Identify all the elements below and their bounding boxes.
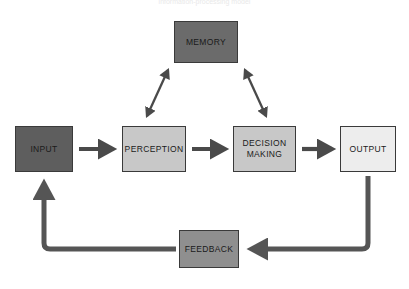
node-memory-label: MEMORY [186, 37, 226, 48]
node-feedback[interactable]: FEEDBACK [179, 230, 239, 268]
arrow-feedback-to-input [44, 184, 176, 249]
node-output-label: OUTPUT [349, 144, 386, 155]
node-memory[interactable]: MEMORY [174, 21, 238, 63]
diagram-canvas: information-processing model [0, 0, 409, 289]
diagram-caption: information-processing model [0, 0, 409, 6]
node-decision-making[interactable]: DECISION MAKING [233, 126, 296, 172]
node-input[interactable]: INPUT [15, 126, 73, 172]
arrow-memory-decision [245, 70, 266, 116]
node-decision-making-label-line2: MAKING [243, 149, 287, 160]
node-perception[interactable]: PERCEPTION [122, 126, 186, 172]
node-input-label: INPUT [30, 144, 57, 155]
arrow-output-to-feedback [252, 176, 368, 249]
node-perception-label: PERCEPTION [125, 144, 184, 155]
arrow-memory-perception [147, 70, 168, 116]
node-decision-making-label-line1: DECISION [243, 138, 287, 149]
node-output[interactable]: OUTPUT [340, 126, 396, 172]
node-feedback-label: FEEDBACK [185, 244, 234, 255]
